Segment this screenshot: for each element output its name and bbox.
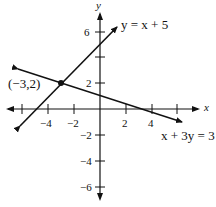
y-tick-label: −4: [80, 156, 92, 167]
x-tick-label: 4: [148, 118, 154, 129]
y-axis-label: y: [96, 0, 101, 11]
equation-label-2: x + 3y = 3: [161, 129, 215, 142]
x-tick-label: −2: [67, 118, 79, 129]
intersection-point: [58, 80, 64, 86]
x-axis-label: x: [204, 102, 209, 113]
x-axis: [6, 104, 200, 114]
y-tick-label: 2: [86, 78, 92, 89]
y-tick-label: −6: [80, 182, 92, 193]
x-tick-label: −4: [40, 118, 52, 129]
y-tick-label: −2: [80, 130, 92, 141]
intersection-label: (−3,2): [8, 77, 40, 90]
coordinate-plane: [0, 0, 216, 207]
x-tick-label: 2: [122, 118, 128, 129]
y-tick-label: 6: [84, 27, 90, 38]
equation-label-1: y = x + 5: [121, 18, 168, 31]
